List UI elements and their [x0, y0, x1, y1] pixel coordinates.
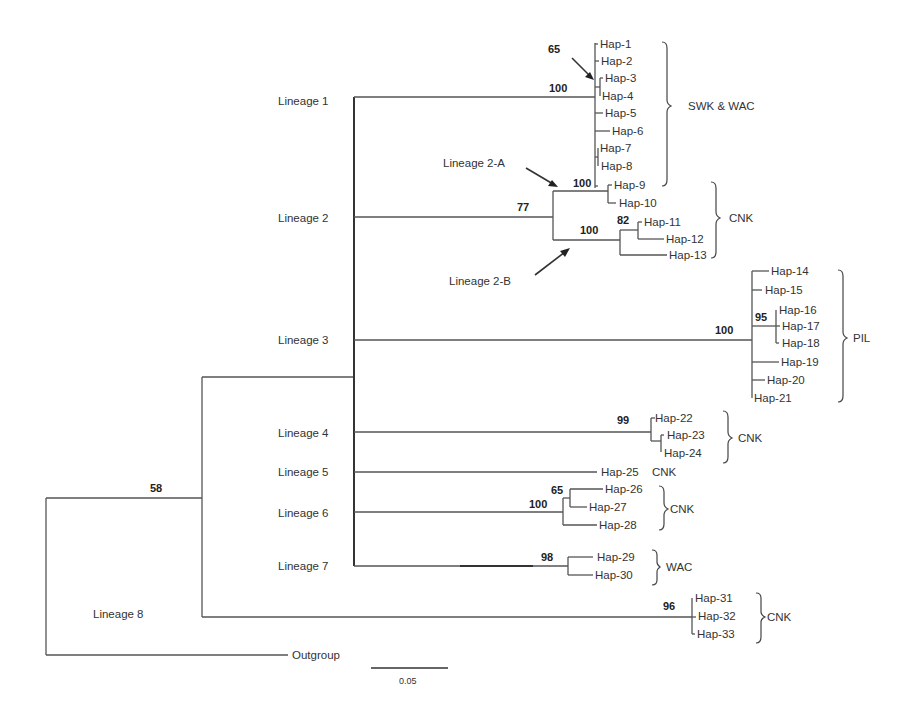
- lineage-2a-label: Lineage 2-A: [443, 157, 505, 169]
- brace-icon: [756, 593, 765, 643]
- bootstrap-lineage-8: 96: [663, 600, 675, 612]
- group-label-pil: PIL: [853, 332, 871, 344]
- brace-icon: [659, 486, 668, 530]
- lineage-2b-label: Lineage 2-B: [449, 275, 511, 287]
- hap-label: Hap-27: [589, 501, 627, 513]
- group-label-cnk: CNK: [767, 611, 792, 623]
- bootstrap-lineage-2a: 100: [573, 177, 591, 189]
- group-label-cnk: CNK: [652, 466, 677, 478]
- bootstrap-root: 58: [150, 482, 162, 494]
- arrow-lineage-2b: [535, 252, 565, 275]
- brace-icon: [838, 270, 847, 402]
- bootstrap-lineage-2: 77: [517, 201, 529, 213]
- hap-label: Hap-3: [605, 72, 636, 84]
- hap-label: Hap-22: [655, 412, 693, 424]
- hap-label: Hap-19: [781, 356, 819, 368]
- hap-label: Hap-1: [600, 38, 631, 50]
- phylogenetic-tree: 58 Lineage 8 Outgroup Lineage 1 100 65 H…: [0, 0, 916, 719]
- outgroup-label: Outgroup: [292, 649, 340, 661]
- lineage-7-label: Lineage 7: [278, 560, 329, 572]
- hap-label: Hap-13: [669, 249, 707, 261]
- hap-label: Hap-28: [599, 519, 637, 531]
- hap-label: Hap-9: [614, 179, 645, 191]
- bootstrap-hap3-4: 65: [548, 43, 560, 55]
- brace-icon: [652, 550, 660, 585]
- brace-icon: [711, 182, 720, 258]
- lineage-4-label: Lineage 4: [278, 427, 329, 439]
- bootstrap-hap11-12: 82: [617, 214, 629, 226]
- hap-label: Hap-32: [698, 610, 736, 622]
- hap-label: Hap-21: [754, 392, 792, 404]
- hap-label: Hap-15: [765, 284, 803, 296]
- hap-label: Hap-6: [612, 125, 643, 137]
- hap-label: Hap-20: [767, 374, 805, 386]
- hap-label: Hap-24: [664, 447, 702, 459]
- hap-label: Hap-12: [666, 233, 704, 245]
- bootstrap-lineage-6: 100: [529, 498, 547, 510]
- bootstrap-lineage-3: 100: [715, 324, 733, 336]
- bootstrap-hap26-27: 65: [551, 484, 563, 496]
- hap-label: Hap-30: [595, 569, 633, 581]
- bootstrap-lineage-4: 99: [617, 414, 629, 426]
- hap-label: Hap-16: [779, 304, 817, 316]
- lineage-6-clade: [354, 489, 603, 525]
- arrow-lineage-2a: [526, 168, 553, 184]
- hap-label: Hap-8: [601, 160, 632, 172]
- hap-label: Hap-31: [695, 592, 733, 604]
- hap-label: Hap-25: [601, 466, 639, 478]
- group-label-cnk: CNK: [729, 212, 754, 224]
- hap-label: Hap-5: [605, 107, 636, 119]
- hap-label: Hap-7: [600, 142, 631, 154]
- group-label-cnk: CNK: [670, 503, 695, 515]
- hap-label: Hap-23: [667, 429, 705, 441]
- bootstrap-lineage-7: 98: [541, 551, 553, 563]
- lineage-8-label: Lineage 8: [93, 608, 144, 620]
- brace-icon: [723, 411, 732, 463]
- bootstrap-hap16-18: 95: [755, 311, 767, 323]
- group-label-cnk: CNK: [738, 432, 763, 444]
- hap-label: Hap-33: [697, 628, 735, 640]
- bootstrap-lineage-2b: 100: [580, 224, 598, 236]
- hap-label: Hap-29: [597, 551, 635, 563]
- hap-label: Hap-14: [771, 265, 809, 277]
- hap-label: Hap-11: [644, 216, 681, 228]
- lineage-2-label: Lineage 2: [278, 212, 329, 224]
- lineage-7-clade: [354, 557, 593, 575]
- brace-icon: [662, 42, 671, 186]
- hap-label: Hap-18: [782, 337, 820, 349]
- group-label-swk-wac: SWK & WAC: [688, 100, 755, 112]
- hap-label: Hap-17: [782, 320, 820, 332]
- lineage-5-label: Lineage 5: [278, 466, 329, 478]
- hap-label: Hap-26: [605, 483, 643, 495]
- group-label-wac: WAC: [666, 561, 692, 573]
- hap-label: Hap-10: [619, 197, 657, 209]
- scale-bar-label: 0.05: [399, 676, 417, 686]
- lineage-6-label: Lineage 6: [278, 507, 329, 519]
- lineage-1-label: Lineage 1: [278, 95, 329, 107]
- hap-label: Hap-4: [602, 90, 634, 102]
- lineage-3-label: Lineage 3: [278, 334, 329, 346]
- bootstrap-lineage-1: 100: [549, 82, 567, 94]
- hap-label: Hap-2: [601, 55, 632, 67]
